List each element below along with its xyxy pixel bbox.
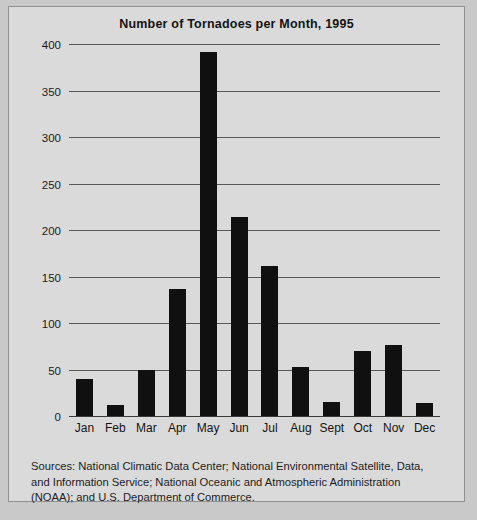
bar-slot bbox=[193, 45, 224, 417]
x-axis-tick-label: Aug bbox=[285, 421, 316, 435]
x-axis-tick-label: Nov bbox=[378, 421, 409, 435]
bar bbox=[138, 370, 155, 417]
y-axis-tick-label: 50 bbox=[48, 365, 61, 377]
y-axis-tick-label: 300 bbox=[42, 132, 61, 144]
bar-slot bbox=[100, 45, 131, 417]
x-axis-tick-labels: JanFebMarAprMayJunJulAugSeptOctNovDec bbox=[69, 421, 440, 435]
bar-slot bbox=[409, 45, 440, 417]
bar-slot bbox=[285, 45, 316, 417]
bar-slot bbox=[378, 45, 409, 417]
bar-slot bbox=[69, 45, 100, 417]
bar bbox=[292, 367, 309, 417]
bar-slot bbox=[224, 45, 255, 417]
chart-title: Number of Tornadoes per Month, 1995 bbox=[9, 17, 464, 31]
x-axis-tick-label: May bbox=[193, 421, 224, 435]
x-axis-line bbox=[69, 416, 440, 418]
bar bbox=[169, 289, 186, 417]
x-axis-tick-label: Apr bbox=[162, 421, 193, 435]
chart-figure: Number of Tornadoes per Month, 1995 0501… bbox=[8, 6, 465, 502]
x-axis-tick-label: Sept bbox=[316, 421, 347, 435]
y-axis-tick-label: 0 bbox=[55, 411, 61, 423]
x-axis-tick-label: Mar bbox=[131, 421, 162, 435]
y-axis-tick-label: 100 bbox=[42, 318, 61, 330]
y-axis-tick-label: 350 bbox=[42, 86, 61, 98]
y-axis-tick-label: 150 bbox=[42, 272, 61, 284]
bar bbox=[231, 217, 248, 417]
x-axis-tick-label: Oct bbox=[347, 421, 378, 435]
x-axis-tick-label: Dec bbox=[409, 421, 440, 435]
bar bbox=[76, 379, 93, 417]
bar bbox=[385, 345, 402, 417]
x-axis-tick-label: Jan bbox=[69, 421, 100, 435]
x-axis-tick-label: Jun bbox=[224, 421, 255, 435]
bar-slot bbox=[316, 45, 347, 417]
bar bbox=[261, 266, 278, 417]
bar bbox=[354, 351, 371, 417]
bar-slot bbox=[255, 45, 286, 417]
bar bbox=[200, 52, 217, 417]
y-axis-tick-label: 400 bbox=[42, 39, 61, 51]
x-axis-tick-label: Jul bbox=[255, 421, 286, 435]
source-note: Sources: National Climatic Data Center; … bbox=[31, 459, 444, 506]
x-axis-tick-label: Feb bbox=[100, 421, 131, 435]
y-axis-tick-label: 200 bbox=[42, 225, 61, 237]
bar-series bbox=[69, 45, 440, 417]
plot-area: 050100150200250300350400 bbox=[69, 45, 440, 417]
bar-slot bbox=[347, 45, 378, 417]
y-axis-tick-label: 250 bbox=[42, 179, 61, 191]
bar-slot bbox=[162, 45, 193, 417]
bar-slot bbox=[131, 45, 162, 417]
